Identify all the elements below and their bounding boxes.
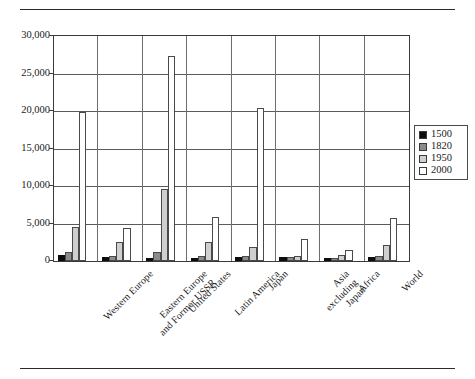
bar	[116, 242, 123, 262]
bar-layer	[54, 36, 409, 261]
bar	[235, 257, 242, 261]
legend-item: 1500	[419, 129, 464, 140]
bar	[205, 242, 212, 261]
x-tick-label: World	[400, 268, 426, 294]
bar	[383, 245, 390, 261]
bar-group	[365, 36, 409, 261]
bar	[168, 56, 175, 261]
y-tick-label: 15,000	[2, 143, 50, 153]
legend-label: 1950	[431, 153, 452, 164]
figure: 05,00010,00015,00020,00025,00030,000 Wes…	[0, 0, 475, 379]
legend-label: 1820	[431, 141, 452, 152]
bar	[65, 252, 72, 261]
legend: 1500182019502000	[414, 125, 468, 180]
bar	[191, 258, 198, 261]
bar	[294, 256, 301, 261]
legend-item: 1950	[419, 153, 464, 164]
legend-swatch-icon	[419, 131, 427, 139]
bar	[324, 258, 331, 261]
legend-swatch-icon	[419, 143, 427, 151]
y-tick-label: 30,000	[2, 30, 50, 40]
y-axis: 05,00010,00015,00020,00025,00030,000	[0, 35, 50, 262]
bar	[390, 218, 397, 261]
legend-swatch-icon	[419, 167, 427, 175]
bar	[375, 256, 382, 261]
bar-group	[232, 36, 276, 261]
bar	[331, 258, 338, 261]
y-tick-label: 25,000	[2, 68, 50, 78]
bar	[102, 257, 109, 261]
bar	[212, 217, 219, 261]
bar	[123, 228, 130, 261]
bar	[198, 256, 205, 261]
legend-label: 2000	[431, 165, 452, 176]
x-tick-label: Western Europe	[101, 268, 155, 322]
bar	[109, 256, 116, 261]
bar	[338, 255, 345, 261]
top-rule	[20, 9, 455, 10]
bar-group	[276, 36, 320, 261]
y-tick-label: 10,000	[2, 180, 50, 190]
legend-label: 1500	[431, 129, 452, 140]
bar	[257, 108, 264, 261]
bar	[58, 255, 65, 261]
bar	[279, 257, 286, 261]
bar	[345, 250, 352, 261]
bar	[146, 258, 153, 261]
bar	[287, 257, 294, 261]
x-axis-labels: Western EuropeEastern Europe and Former …	[0, 262, 475, 372]
bar	[161, 189, 168, 261]
bar	[72, 227, 79, 261]
y-tick-label: 20,000	[2, 105, 50, 115]
bar-group	[320, 36, 364, 261]
bar-group	[54, 36, 98, 261]
legend-item: 2000	[419, 165, 464, 176]
bar-group	[143, 36, 187, 261]
bar	[79, 112, 86, 261]
bar	[368, 257, 375, 261]
bar	[153, 252, 160, 261]
x-tick-label: Eastern Europe and Former USSR	[148, 268, 218, 338]
legend-swatch-icon	[419, 155, 427, 163]
bar	[242, 256, 249, 261]
bar-group	[187, 36, 231, 261]
bar	[301, 239, 308, 261]
x-tick-label: Asia excluding Japan	[315, 268, 368, 321]
bar-group	[98, 36, 142, 261]
bar	[249, 247, 256, 261]
legend-item: 1820	[419, 141, 464, 152]
x-tick-label: Africa	[355, 268, 382, 295]
y-tick-label: 5,000	[2, 218, 50, 228]
